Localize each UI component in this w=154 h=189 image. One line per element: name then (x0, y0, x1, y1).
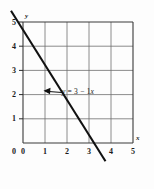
y-tick-label-4: 4 (4, 43, 16, 51)
arrow-head (44, 88, 51, 94)
x-tick-label-0: 0 (17, 148, 29, 156)
line-series-y-equals-3-minus-x (11, 11, 106, 161)
plot-frame (23, 22, 133, 143)
y-tick-label-2: 2 (4, 91, 16, 99)
y-tick-label-0: 0 (4, 148, 16, 156)
x-tick-label-4: 4 (105, 148, 117, 156)
equation-annotation: y = 3 − 1x (62, 88, 94, 96)
x-axis-label: x (136, 135, 140, 142)
x-tick-label-3: 3 (83, 148, 95, 156)
grid-lines (23, 22, 133, 143)
y-tick-label-1: 1 (4, 115, 16, 123)
y-tick-label-5: 5 (4, 19, 16, 27)
x-tick-label-2: 2 (61, 148, 73, 156)
x-tick-label-5: 5 (127, 148, 139, 156)
y-tick-label-3: 3 (4, 67, 16, 75)
equation-x-symbol: x (91, 87, 95, 96)
y-tick-marks (19, 22, 23, 119)
graph-figure: 5 4 3 2 1 0 0 1 2 3 4 5 y x y = 3 − 1x (0, 0, 154, 189)
x-tick-label-1: 1 (39, 148, 51, 156)
y-axis-label: y (25, 13, 28, 20)
equation-body: = 3 − 1 (66, 87, 91, 96)
